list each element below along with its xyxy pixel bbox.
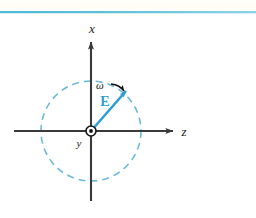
z-axis-label: z [180,124,186,139]
x-axis-label: x [88,21,95,36]
origin-dot-icon [89,129,93,133]
rotation-direction-arrow [111,84,124,91]
field-vector-label: E [100,94,109,109]
physics-diagram: x z y ω E [0,0,256,218]
y-axis-label: y [76,137,82,149]
figure-container: x z y ω E [0,0,256,218]
omega-label: ω [96,79,104,91]
